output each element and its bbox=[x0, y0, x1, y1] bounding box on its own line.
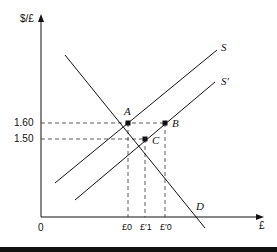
x-tick-q1-prime: £′1 bbox=[140, 222, 152, 232]
supply-demand-diagram bbox=[0, 0, 277, 252]
curve-label-D: D bbox=[196, 200, 204, 212]
curve-label-S: S bbox=[221, 41, 227, 53]
point-label-C: C bbox=[152, 134, 159, 146]
x-axis-label: £ bbox=[259, 220, 265, 231]
demand-curve-D bbox=[65, 55, 205, 228]
point-label-A: A bbox=[124, 105, 131, 117]
y-tick-1-50: 1.50 bbox=[14, 133, 33, 144]
y-axis-label: $/£ bbox=[20, 13, 34, 24]
origin-label: 0 bbox=[38, 222, 44, 233]
x-tick-q0: £0 bbox=[122, 222, 132, 232]
supply-curve-S bbox=[55, 50, 217, 183]
point-label-B: B bbox=[172, 117, 179, 129]
y-axis-arrow-icon bbox=[38, 14, 44, 22]
curve-label-S-prime: S′ bbox=[221, 75, 229, 87]
point-C bbox=[143, 137, 148, 142]
point-A bbox=[126, 121, 131, 126]
bottom-rule bbox=[0, 247, 277, 252]
point-B bbox=[163, 121, 168, 126]
y-tick-1-60: 1.60 bbox=[14, 117, 33, 128]
x-tick-q0-prime: £′0 bbox=[160, 222, 172, 232]
